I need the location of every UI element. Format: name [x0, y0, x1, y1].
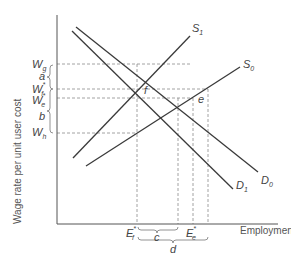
x-axis-title: Employment [240, 225, 291, 236]
curve-d1 [72, 31, 233, 189]
curve-s0 [86, 67, 240, 166]
c-label: c [154, 231, 160, 243]
d-label: d [170, 243, 177, 255]
ee-label: E*e [186, 225, 196, 241]
ef-label: E*f [126, 225, 136, 241]
labor-market-diagram: Wage rate per unit user cost S1 S0 D0 D1… [0, 0, 291, 264]
point-e-label: e [198, 93, 204, 105]
curve-labels: S1 S0 D0 D1 [192, 22, 273, 193]
label-s0: S0 [243, 58, 254, 72]
label-d1: D1 [236, 179, 248, 193]
brace-b [47, 89, 53, 133]
y-axis-title: Wage rate per unit user cost [12, 99, 23, 224]
brace-a [47, 65, 53, 89]
wh-label: Wh [32, 126, 46, 140]
curve-d0 [76, 27, 258, 172]
y-braces [47, 65, 53, 133]
curves [72, 27, 258, 189]
label-d0: D0 [261, 174, 273, 188]
point-f-label: f [144, 84, 148, 96]
wage-labels: Wg a W*f W*e b Wh [32, 58, 46, 140]
curve-s1 [73, 36, 190, 158]
label-s1: S1 [192, 22, 203, 36]
horizontal-guides [57, 64, 208, 133]
vertical-guides [137, 64, 208, 224]
we-label: W*e [32, 92, 45, 108]
x-braces [138, 227, 208, 243]
b-label: b [39, 110, 45, 122]
